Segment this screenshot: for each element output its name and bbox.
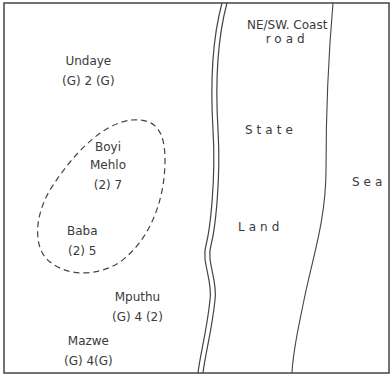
- homestead-undaye: Undaye (G) 2 (G): [62, 54, 115, 88]
- state-label: State: [245, 123, 297, 137]
- homestead-mazwe: Mazwe (G) 4(G): [64, 334, 113, 368]
- homestead-boyi-mehlo: Boyi Mehlo (2) 7: [90, 140, 126, 192]
- coast-road-line-right: [203, 3, 227, 373]
- sea-label: Sea: [352, 175, 386, 189]
- road-label: NE/SW. Coast road: [247, 18, 327, 46]
- homestead-baba: Baba (2) 5: [67, 224, 98, 258]
- map-drawing: [0, 0, 392, 377]
- coastline: [292, 3, 333, 373]
- land-label: Land: [238, 220, 283, 234]
- homestead-mputhu: Mputhu (G) 4 (2): [112, 290, 163, 324]
